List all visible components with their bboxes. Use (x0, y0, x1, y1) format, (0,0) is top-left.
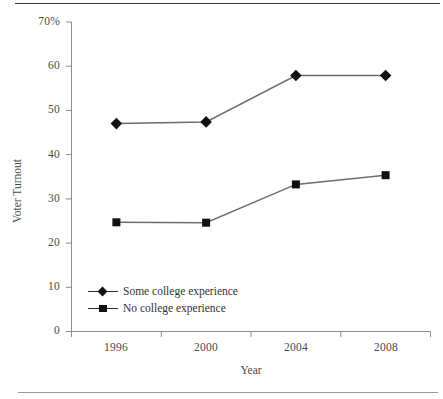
x-tick-label-1996: 1996 (86, 341, 146, 353)
square-marker-icon (112, 218, 120, 226)
diamond-marker-icon (111, 118, 123, 130)
series-line-no-college (116, 175, 385, 223)
series-no-college-experience (112, 171, 389, 227)
legend-label-some-college: Some college experience (123, 285, 238, 297)
y-tick-label-10: 10 (16, 280, 60, 292)
y-tick-label-50: 50 (16, 103, 60, 115)
legend-item-no-college: No college experience (88, 302, 226, 314)
square-marker-icon (292, 180, 300, 188)
line-chart-plot (0, 0, 443, 399)
legend-label-no-college: No college experience (123, 302, 226, 314)
series-markers-some-college (111, 70, 392, 130)
square-marker-icon (99, 305, 107, 313)
legend-swatch-diamond (88, 285, 118, 297)
x-tick-label-2004: 2004 (266, 341, 326, 353)
y-axis-title: Voter Turnout (11, 136, 23, 246)
series-line-some-college (116, 76, 385, 124)
legend-swatch-square (88, 302, 118, 314)
figure-container: 70% 60 50 40 30 20 10 0 Voter Turnout 19… (0, 0, 443, 399)
y-tick-label-0: 0 (16, 324, 60, 336)
square-marker-icon (202, 219, 210, 227)
series-some-college-experience (111, 70, 392, 130)
diamond-marker-icon (380, 70, 392, 82)
y-axis-ticks (66, 22, 72, 332)
diamond-marker-icon (200, 116, 212, 128)
bottom-horizontal-rule (18, 392, 438, 393)
square-marker-icon (382, 171, 390, 179)
x-axis-ticks (72, 332, 431, 338)
y-tick-label-70: 70% (16, 15, 60, 27)
diamond-marker-icon (290, 70, 302, 82)
x-tick-label-2000: 2000 (176, 341, 236, 353)
x-axis-title: Year (71, 364, 431, 376)
diamond-marker-icon (98, 286, 108, 296)
legend-item-some-college: Some college experience (88, 285, 238, 297)
y-tick-label-60: 60 (16, 59, 60, 71)
x-tick-label-2008: 2008 (356, 341, 416, 353)
